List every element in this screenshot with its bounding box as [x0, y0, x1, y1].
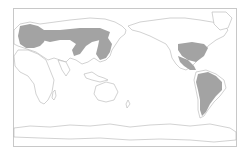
world-map-svg [0, 0, 249, 154]
distribution-map [0, 0, 249, 154]
